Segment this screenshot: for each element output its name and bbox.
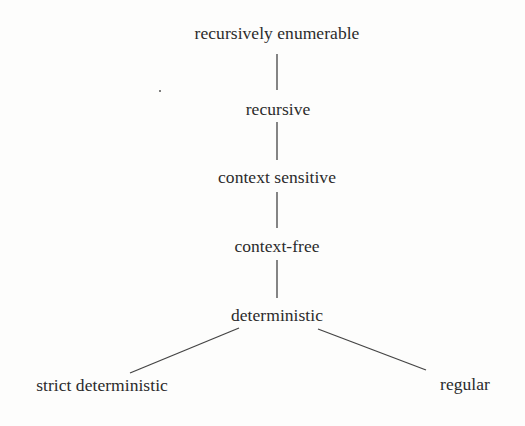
- node-strict-deterministic: strict deterministic: [36, 377, 168, 395]
- node-recursive: recursive: [246, 101, 311, 119]
- stray-dot-mark: [159, 90, 161, 92]
- language-hierarchy-diagram: recursively enumerable recursive context…: [0, 0, 525, 426]
- edge-deterministic-to-strict-deterministic: [130, 328, 239, 373]
- node-context-free: context-free: [234, 238, 319, 256]
- edge-deterministic-to-regular: [318, 329, 426, 370]
- node-recursively-enumerable: recursively enumerable: [195, 25, 360, 43]
- node-regular: regular: [440, 376, 490, 394]
- node-deterministic: deterministic: [231, 307, 323, 325]
- node-context-sensitive: context sensitive: [218, 169, 336, 187]
- edges-layer: [0, 0, 525, 426]
